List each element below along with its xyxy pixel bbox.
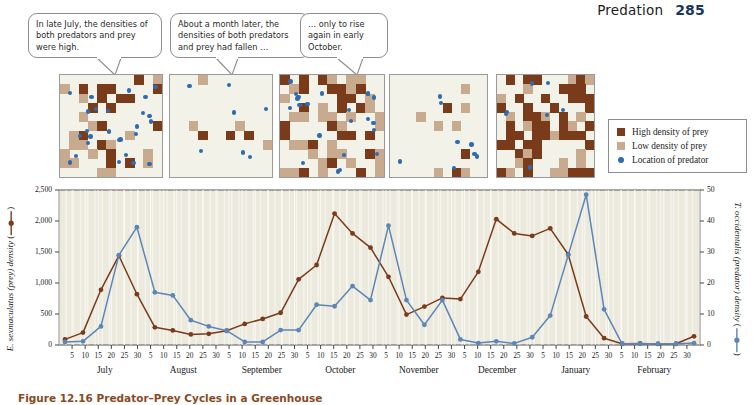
y-tick-label: 500 [8,309,52,318]
predator-marker [149,119,153,123]
predator-marker [317,133,321,137]
x-tick-label: 30 [448,351,455,360]
predator-marker [143,95,147,99]
grid-cell [198,75,208,85]
x-tick-label: 30 [134,351,141,360]
predator-marker [288,106,292,110]
y-tick-label: 2,000 [8,216,52,225]
grid-cell [523,84,532,94]
callout-2: About a month later, the densities of bo… [170,13,310,58]
x-tick-label: 15 [644,351,651,360]
grid-cell [125,131,135,141]
x-tick-label: 30 [291,351,298,360]
predator-marker [438,94,442,98]
figure-caption: Figure 12.16 Predator–Prey Cycles in a G… [18,392,322,404]
predator-marker [305,102,309,106]
x-axis-month-label: January [561,365,590,375]
x-axis-month-label: October [325,365,355,375]
predator-marker [546,81,550,85]
x-tick-label: 25 [513,351,520,360]
x-tick-label: 15 [487,351,494,360]
x-tick-label: 25 [199,351,206,360]
grid-cell [299,140,309,150]
y2-tick-label: 20 [707,278,729,287]
grid-cell [585,121,594,131]
y2-tick-label: 10 [707,309,729,318]
legend-label-high-density: High density of prey [632,127,709,137]
legend-label-low-density: Low density of prey [632,141,707,151]
chart-container: E. sexmaculatus (prey) density () T. occ… [0,182,753,401]
grid-cell [461,103,470,113]
predator-marker [85,129,89,133]
grid-cell [375,121,385,131]
predator-marker [371,121,375,125]
grid-cell [356,84,366,94]
x-tick-label: 15 [173,351,180,360]
x-axis-month-label: February [637,365,671,375]
predator-marker [241,150,245,154]
grid-cell [106,168,116,178]
predator-marker [107,129,111,133]
x-tick-label: 15 [252,351,259,360]
legend-item-high-density: High density of prey [617,125,738,139]
legend-label-predator: Location of predator [632,155,708,165]
predator-marker [89,95,93,99]
grid-cell [506,75,515,85]
x-tick-label: 10 [238,351,245,360]
predator-marker [147,162,151,166]
y-tick-label: 1,000 [8,278,52,287]
predator-marker [127,88,131,92]
callout-2-text: About a month later, the densities of bo… [178,19,289,52]
grid-cell [506,168,515,178]
x-tick-label: 5 [306,351,310,360]
x-tick-label: 10 [474,351,481,360]
predator-marker [366,117,370,121]
grid-cell [88,149,98,159]
x-tick-label: 10 [395,351,402,360]
x-tick-label: 15 [330,351,337,360]
grid-cell [585,75,594,85]
x-tick-label: 10 [160,351,167,360]
predator-marker [68,91,72,95]
grid-cell [280,131,290,141]
x-tick-label: 20 [579,351,586,360]
grid-cell [461,84,470,94]
predator-marker [264,107,268,111]
predator-marker [117,160,121,164]
y2-axis-title: T. occidentalis (predator) density () [733,202,743,356]
predator-marker [338,168,342,172]
grid-cell [337,103,347,113]
grid-cell [299,84,309,94]
legend-item-low-density: Low density of prey [617,139,738,153]
predator-marker [398,159,402,163]
callout-1-text: In late July, the densities of both pred… [36,19,148,52]
x-tick-label: 10 [81,351,88,360]
grid-cell [434,168,443,178]
x-tick-label: 5 [70,351,74,360]
x-tick-label: 15 [95,351,102,360]
chart-legend: High density of prey Low density of prey… [608,119,747,173]
predator-marker [86,141,90,145]
grid-cell [97,121,107,131]
callout-3-text: … only to rise again in early October. [308,19,364,52]
predator-marker [232,110,236,114]
predator-marker [86,109,90,113]
predator-marker [375,152,379,156]
panel-late-july [59,74,163,178]
grid-cell [327,121,337,131]
predator-marker [124,153,128,157]
predator-marker [88,134,92,138]
x-tick-label: 25 [435,351,442,360]
predator-marker [135,124,139,128]
grid-cell [318,168,328,178]
predator-dot-icon [618,157,624,163]
x-tick-label: 30 [369,351,376,360]
x-tick-label: 10 [317,351,324,360]
x-tick-label: 5 [227,351,231,360]
grid-cell [337,131,347,141]
grid-cell [585,140,594,150]
y2-tick-label: 0 [707,340,729,349]
predator-marker [74,154,78,158]
x-tick-label: 15 [409,351,416,360]
predator-marker [248,155,252,159]
